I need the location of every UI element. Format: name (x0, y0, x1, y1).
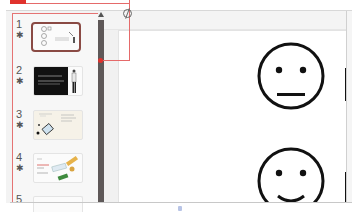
slide-transition-icon-4: ✱ (16, 164, 24, 173)
slide-thumbnail-4[interactable] (33, 153, 83, 183)
slide-content (119, 31, 352, 203)
busy-cursor-icon (123, 9, 132, 18)
slide-number-1: 1 (16, 19, 22, 30)
slide-number-5: 5 (16, 194, 22, 205)
status-indicator-icon (178, 206, 182, 211)
slide-thumbnail-2[interactable] (33, 66, 83, 96)
slide-thumbnail-5[interactable] (33, 196, 83, 212)
status-divider (10, 202, 352, 203)
slide-canvas[interactable] (118, 30, 352, 203)
slide-number-3: 3 (16, 109, 22, 120)
scroll-up-arrow-icon[interactable] (98, 12, 104, 17)
slide-panel-scrollbar-thumb[interactable] (98, 20, 104, 203)
slide-number-2: 2 (16, 65, 22, 76)
dark-slide-thumbnail-icon (34, 67, 82, 95)
slide-thumbnail-panel[interactable]: 1 ✱ 2 ✱ 3 ✱ (12, 13, 99, 203)
annotation-callout-label (10, 0, 26, 4)
annotation-callout-box (10, 0, 130, 4)
slide-transition-icon-1: ✱ (16, 31, 24, 40)
window-right-edge (346, 11, 352, 203)
slide-transition-icon-2: ✱ (16, 77, 24, 86)
slide-thumbnail-3[interactable] (33, 110, 83, 140)
slide-transition-icon-3: ✱ (16, 121, 24, 130)
neutral-face-icon (259, 44, 323, 108)
annotation-leader-line-horizontal (101, 60, 130, 61)
illustration-thumbnail-icon (34, 154, 82, 182)
annotation-pointer-dot (98, 58, 103, 63)
ruler-band (104, 11, 352, 30)
diagram-thumbnail-icon (34, 111, 82, 139)
smiling-face-icon (259, 149, 323, 203)
slide-number-4: 4 (16, 152, 22, 163)
slide-thumbnail-1[interactable] (31, 22, 81, 52)
faces-thumbnail-icon (33, 24, 79, 50)
